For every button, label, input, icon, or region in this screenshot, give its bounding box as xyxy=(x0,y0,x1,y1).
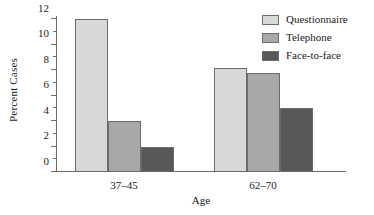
bar xyxy=(280,108,313,172)
bar xyxy=(141,147,174,173)
bar-chart-figure: Percent Cases 024681012 37–4562–70 Age Q… xyxy=(0,0,374,215)
bar xyxy=(214,68,247,172)
y-axis-title-text: Percent Cases xyxy=(7,58,19,122)
legend-item: Questionnaire xyxy=(262,14,348,25)
y-axis-minor-tick xyxy=(53,107,56,108)
x-axis-title: Age xyxy=(56,194,346,206)
legend-swatch-icon xyxy=(262,51,279,61)
y-axis-tick xyxy=(51,18,56,19)
y-axis-tick-label: 8 xyxy=(44,53,50,65)
y-axis-tick-label: 10 xyxy=(38,27,49,39)
y-axis-line xyxy=(56,16,57,172)
x-axis-group-label: 62–70 xyxy=(249,179,277,191)
y-axis-tick-label: 12 xyxy=(38,2,49,14)
legend-item: Face-to-face xyxy=(262,50,348,61)
y-axis-minor-tick xyxy=(53,133,56,134)
y-axis-tick xyxy=(51,120,56,121)
legend-swatch-icon xyxy=(262,33,279,43)
y-axis-minor-tick xyxy=(53,31,56,32)
y-axis-tick xyxy=(51,69,56,70)
bar xyxy=(247,73,280,172)
y-axis-tick-label: 4 xyxy=(44,104,50,116)
y-axis-tick-label: 6 xyxy=(44,78,50,90)
y-axis-minor-tick xyxy=(53,82,56,83)
legend-swatch-icon xyxy=(262,15,279,25)
bar xyxy=(108,121,141,172)
y-axis-tick-label: 0 xyxy=(44,155,50,167)
y-axis-tick xyxy=(51,171,56,172)
legend: QuestionnaireTelephoneFace-to-face xyxy=(262,14,348,61)
y-axis-minor-tick xyxy=(53,158,56,159)
y-axis-title: Percent Cases xyxy=(2,0,24,180)
legend-item-label: Face-to-face xyxy=(286,50,341,61)
legend-item: Telephone xyxy=(262,32,348,43)
y-axis-tick xyxy=(51,44,56,45)
y-axis-tick xyxy=(51,146,56,147)
bar xyxy=(75,19,108,172)
legend-item-label: Questionnaire xyxy=(286,14,348,25)
y-axis-minor-tick xyxy=(53,56,56,57)
y-axis-tick xyxy=(51,95,56,96)
y-axis-tick-label: 2 xyxy=(44,129,50,141)
legend-item-label: Telephone xyxy=(286,32,332,43)
x-axis-group-label: 37–45 xyxy=(110,179,138,191)
